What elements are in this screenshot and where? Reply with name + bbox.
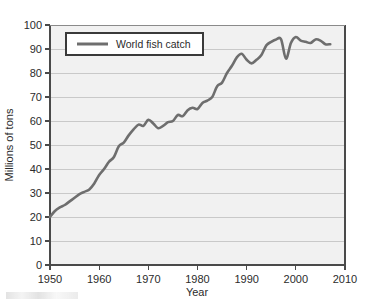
line-chart: 0102030405060708090100 19501960197019801… bbox=[0, 0, 374, 306]
y-tick-label: 90 bbox=[30, 43, 42, 55]
y-tick-label: 30 bbox=[30, 187, 42, 199]
y-tick-label: 40 bbox=[30, 163, 42, 175]
x-tick-label: 2010 bbox=[333, 273, 357, 285]
x-axis-ticks: 1950196019701980199020002010 bbox=[38, 265, 357, 285]
legend-label: World fish catch bbox=[116, 38, 191, 50]
figure-container: 0102030405060708090100 19501960197019801… bbox=[0, 0, 374, 306]
y-tick-label: 0 bbox=[36, 259, 42, 271]
y-axis-ticks: 0102030405060708090100 bbox=[24, 19, 50, 271]
x-axis-title: Year bbox=[186, 286, 209, 298]
y-tick-label: 20 bbox=[30, 211, 42, 223]
x-tick-label: 1990 bbox=[234, 273, 258, 285]
y-tick-label: 100 bbox=[24, 19, 42, 31]
y-tick-label: 70 bbox=[30, 91, 42, 103]
x-tick-label: 1960 bbox=[87, 273, 111, 285]
y-tick-label: 50 bbox=[30, 139, 42, 151]
x-tick-label: 1980 bbox=[185, 273, 209, 285]
y-tick-label: 10 bbox=[30, 235, 42, 247]
x-tick-label: 2000 bbox=[284, 273, 308, 285]
x-tick-label: 1970 bbox=[136, 273, 160, 285]
y-tick-label: 80 bbox=[30, 67, 42, 79]
y-axis-title: Millions of tons bbox=[3, 108, 15, 181]
y-tick-label: 60 bbox=[30, 115, 42, 127]
x-tick-label: 1950 bbox=[38, 273, 62, 285]
legend: World fish catch bbox=[66, 33, 203, 55]
